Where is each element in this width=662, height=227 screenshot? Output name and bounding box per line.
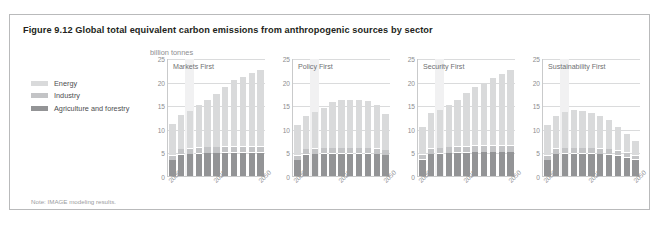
bar-segment bbox=[446, 153, 452, 176]
legend: EnergyIndustryAgriculture and forestry bbox=[31, 77, 129, 115]
bar-segment bbox=[178, 115, 184, 149]
bar-segment bbox=[365, 101, 371, 148]
bar-segment bbox=[454, 100, 460, 147]
bar-segment bbox=[196, 154, 202, 176]
bar-segment bbox=[463, 93, 469, 146]
bar bbox=[221, 59, 230, 176]
y-axis-tick-label: 20 bbox=[533, 79, 540, 86]
y-axis-tick-label: 0 bbox=[411, 174, 415, 181]
bar-segment bbox=[356, 100, 362, 148]
bar bbox=[462, 59, 471, 176]
bar-segment bbox=[571, 110, 577, 148]
bar-segment bbox=[428, 113, 434, 148]
bar-segment bbox=[187, 111, 193, 148]
bar-segment bbox=[303, 155, 309, 176]
bar bbox=[212, 59, 221, 176]
bar-segment bbox=[338, 154, 344, 176]
bar bbox=[561, 59, 570, 176]
bar-group bbox=[418, 59, 515, 176]
bar-segment bbox=[472, 87, 478, 146]
bar-segment bbox=[249, 153, 255, 176]
y-axis-tick-label: 5 bbox=[411, 150, 415, 157]
bar-segment bbox=[257, 70, 263, 146]
bar bbox=[328, 59, 337, 176]
bar-segment bbox=[356, 154, 362, 176]
bar-segment bbox=[624, 134, 630, 152]
legend-swatch-icon bbox=[31, 81, 48, 86]
panel-title: Security First bbox=[423, 63, 464, 71]
bar bbox=[596, 59, 605, 176]
bar-segment bbox=[472, 152, 478, 176]
plot-area: Markets First bbox=[167, 59, 265, 177]
bar-segment bbox=[321, 154, 327, 176]
bar bbox=[543, 59, 552, 176]
bar-segment bbox=[463, 153, 469, 176]
bar-segment bbox=[213, 94, 219, 147]
plot-area: Security First bbox=[417, 59, 515, 177]
bar-segment bbox=[507, 70, 513, 145]
x-axis: 200020252050 bbox=[417, 179, 515, 211]
y-axis-tick-label: 20 bbox=[408, 79, 415, 86]
bar bbox=[337, 59, 346, 176]
bar-segment bbox=[178, 155, 184, 176]
legend-item: Energy bbox=[31, 77, 129, 90]
bar bbox=[622, 59, 631, 176]
bar-segment bbox=[240, 77, 246, 146]
bar bbox=[489, 59, 498, 176]
bar-segment bbox=[579, 154, 585, 176]
y-axis-tick-label: 5 bbox=[161, 150, 165, 157]
bar bbox=[239, 59, 248, 176]
bar-segment bbox=[204, 153, 210, 176]
bar-segment bbox=[632, 141, 638, 155]
chart-panel: 0510152025Policy First200020252050 bbox=[275, 59, 400, 211]
bar-segment bbox=[490, 152, 496, 176]
bar-segment bbox=[499, 152, 505, 176]
bar-group bbox=[543, 59, 640, 176]
bar-segment bbox=[419, 127, 425, 154]
bar bbox=[497, 59, 506, 176]
bar bbox=[605, 59, 614, 176]
legend-item-label: Energy bbox=[54, 79, 77, 88]
bar bbox=[319, 59, 328, 176]
bar-segment bbox=[481, 83, 487, 146]
bar bbox=[302, 59, 311, 176]
figure-note: Note: IMAGE modeling results. bbox=[31, 198, 116, 205]
figure-frame: Figure 9.12 Global total equivalent carb… bbox=[9, 14, 650, 210]
bar-segment bbox=[204, 100, 210, 147]
bar-segment bbox=[437, 110, 443, 148]
bar-segment bbox=[624, 158, 630, 176]
bar bbox=[587, 59, 596, 176]
x-axis: 200020252050 bbox=[542, 179, 640, 211]
y-axis: 0510152025 bbox=[150, 59, 167, 177]
bar bbox=[480, 59, 489, 176]
y-axis-tick-label: 0 bbox=[161, 174, 165, 181]
bar-segment bbox=[597, 154, 603, 176]
panel-title: Markets First bbox=[173, 63, 214, 71]
bar bbox=[186, 59, 195, 176]
bar-segment bbox=[257, 153, 263, 176]
bar bbox=[453, 59, 462, 176]
y-axis-tick-label: 0 bbox=[536, 174, 540, 181]
bar-segment bbox=[499, 74, 505, 145]
y-axis-tick-label: 10 bbox=[408, 126, 415, 133]
bar-segment bbox=[213, 153, 219, 176]
bar-segment bbox=[428, 154, 434, 176]
bar bbox=[256, 59, 265, 176]
bar bbox=[355, 59, 364, 176]
bar bbox=[293, 59, 302, 176]
chart-panel: 0510152025Sustainability First2000202520… bbox=[525, 59, 650, 211]
panel-grid: 0510152025Markets First20002025205005101… bbox=[150, 59, 650, 211]
bar-segment bbox=[579, 111, 585, 147]
y-axis-tick-label: 10 bbox=[158, 126, 165, 133]
bar-group bbox=[293, 59, 390, 176]
chart-panel: 0510152025Security First200020252050 bbox=[400, 59, 525, 211]
bar bbox=[346, 59, 355, 176]
bar-segment bbox=[196, 105, 202, 147]
bar-segment bbox=[553, 116, 559, 148]
y-axis-tick-label: 25 bbox=[408, 56, 415, 63]
bar bbox=[247, 59, 256, 176]
bar bbox=[203, 59, 212, 176]
bar-segment bbox=[615, 127, 621, 151]
bar-segment bbox=[507, 152, 513, 176]
legend-item: Industry bbox=[31, 90, 129, 103]
